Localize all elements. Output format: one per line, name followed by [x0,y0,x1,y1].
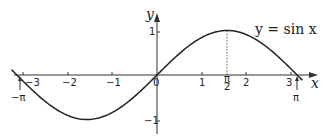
y-axis-arrow-icon [154,13,160,22]
x-axis-label: x [311,75,319,91]
pi-label: π [293,92,299,103]
xtick-m2: −2 [62,77,77,88]
xtick-2: 2 [243,77,249,88]
ytick-m1: −1 [144,115,159,126]
curve-label: y = sin x [254,21,317,37]
sine-chart: −3 −2 −1 0 1 2 3 1 −1 π 2 −π π x y y = s… [0,0,328,139]
y-axis-label: y [145,6,155,22]
neg-pi-label: −π [11,92,25,103]
xtick-0: 0 [153,77,159,88]
pi-half-den: 2 [224,81,230,92]
xtick-m1: −1 [106,77,121,88]
xtick-1: 1 [199,77,205,88]
ytick-1: 1 [149,26,155,37]
xtick-m3: −3 [25,77,40,88]
xtick-3: 3 [286,77,292,88]
